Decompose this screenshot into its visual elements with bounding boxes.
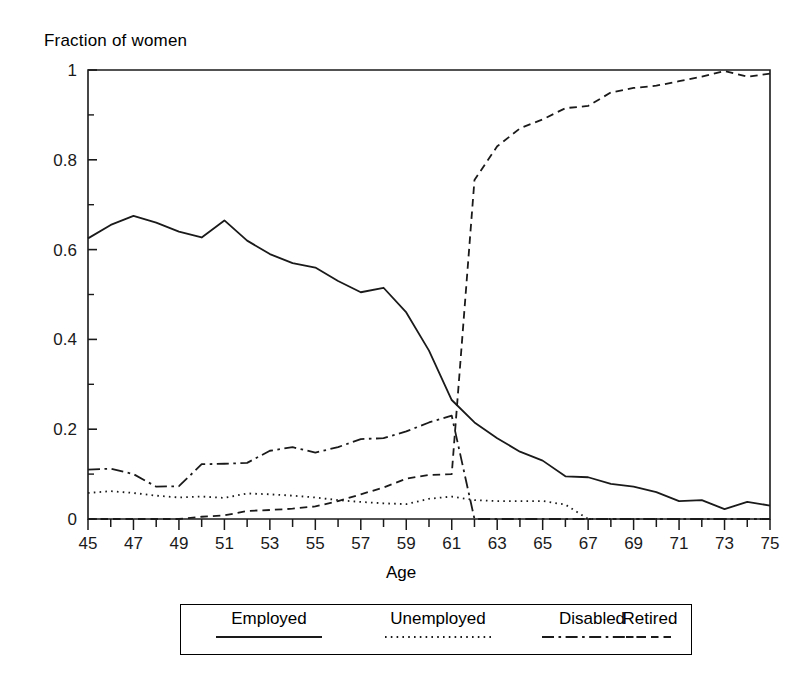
x-tick-label: 69 — [624, 534, 643, 553]
x-tick-label: 59 — [397, 534, 416, 553]
legend-item-retired: Retired — [611, 608, 689, 643]
legend-item-employed: Employed — [189, 608, 349, 643]
x-tick-label: 53 — [260, 534, 279, 553]
x-tick-label: 55 — [306, 534, 325, 553]
y-tick-label: 0 — [68, 510, 77, 529]
legend-item-unemployed: Unemployed — [349, 608, 527, 643]
series-line-disabled — [88, 416, 770, 519]
x-tick-label: 63 — [488, 534, 507, 553]
y-tick-label: 0.4 — [53, 330, 77, 349]
x-tick-label: 71 — [670, 534, 689, 553]
x-tick-label: 61 — [442, 534, 461, 553]
y-tick-label: 0.6 — [53, 241, 77, 260]
legend-label: Employed — [189, 608, 349, 630]
legend-label: Retired — [611, 608, 689, 630]
plot-area: 00.20.40.60.8145474951535557596163656769… — [0, 0, 802, 600]
x-tick-label: 47 — [124, 534, 143, 553]
x-tick-label: 49 — [169, 534, 188, 553]
legend-line-sample — [611, 633, 689, 643]
plot-frame — [88, 70, 770, 519]
x-axis-title: Age — [0, 563, 802, 583]
y-tick-label: 1 — [68, 61, 77, 80]
x-tick-label: 75 — [761, 534, 780, 553]
x-tick-label: 51 — [215, 534, 234, 553]
y-tick-label: 0.8 — [53, 151, 77, 170]
x-tick-label: 73 — [715, 534, 734, 553]
chart-legend: EmployedUnemployedDisabledRetired — [180, 604, 692, 655]
x-tick-label: 57 — [351, 534, 370, 553]
x-tick-label: 67 — [579, 534, 598, 553]
x-tick-label: 45 — [79, 534, 98, 553]
legend-line-sample — [349, 633, 527, 643]
legend-line-sample — [189, 633, 349, 643]
series-line-unemployed — [88, 491, 770, 519]
x-tick-label: 65 — [533, 534, 552, 553]
legend-label: Unemployed — [349, 608, 527, 630]
series-line-retired — [88, 71, 770, 519]
y-tick-label: 0.2 — [53, 420, 77, 439]
chart-page: Fraction of women 00.20.40.60.8145474951… — [0, 0, 802, 679]
series-line-employed — [88, 216, 770, 509]
chart-canvas: 00.20.40.60.8145474951535557596163656769… — [0, 0, 802, 600]
